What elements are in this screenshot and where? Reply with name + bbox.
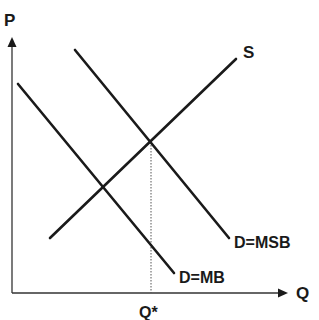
- supply-label: S: [243, 43, 254, 62]
- demand-mb-label: D=MB: [179, 269, 225, 286]
- y-axis-label: P: [4, 11, 15, 30]
- demand-msb-curve: [75, 50, 229, 238]
- y-axis-arrow-icon: [8, 37, 17, 47]
- demand-msb-label: D=MSB: [234, 234, 290, 251]
- x-axis: Q: [12, 284, 309, 303]
- economics-diagram: P Q Q* D=MB D=MSB S: [0, 0, 319, 320]
- y-axis: P: [4, 11, 17, 293]
- equilibrium-quantity-label: Q*: [139, 304, 158, 320]
- x-axis-arrow-icon: [278, 289, 288, 298]
- x-axis-label: Q: [296, 284, 309, 303]
